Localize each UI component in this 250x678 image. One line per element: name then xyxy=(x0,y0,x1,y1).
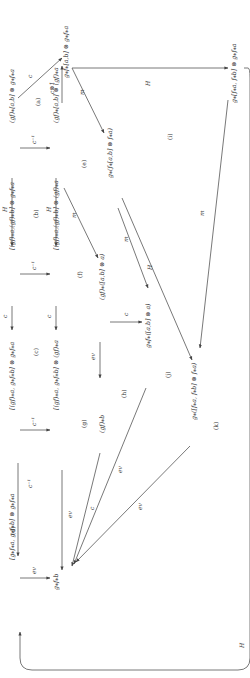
node-g-f-ab-tensor-f-a: g⁎(f⁎[a,b] ⊗ f⁎a) xyxy=(106,128,114,178)
region-i: (i) xyxy=(166,133,173,140)
label-ev-h: ev xyxy=(116,465,123,473)
node-gf-ab-tensor-gfa: (gf)⁎[a,b] ⊗ g⁎f⁎a xyxy=(8,69,16,123)
arrow-ev-n14-n9 xyxy=(76,446,190,562)
arrow-m-n6-n11 xyxy=(64,188,98,258)
arrow-H-n10-n14 xyxy=(122,198,192,360)
region-e: (e) xyxy=(80,160,87,168)
label-c-diag: c xyxy=(26,74,33,78)
label-cinv-n1-n6: c⁻¹ xyxy=(30,135,37,144)
label-m-n5: m xyxy=(78,89,85,95)
label-H-outer: H xyxy=(238,642,245,649)
node-g-f-ab-tensor-a: g⁎f⁎([a,b] ⊗ a) xyxy=(144,303,152,348)
label-H-mid: H xyxy=(45,206,52,213)
node-g-hom-fa-fb-tensor-gfa: g⁎[f⁎a, f⁎b] ⊗ g⁎f⁎a xyxy=(230,43,238,103)
arrow-ev-n13-n9 xyxy=(74,388,146,564)
arrow-c-n12-n9 xyxy=(72,453,100,566)
commutative-diagram: (gf)⁎[a,b] ⊗ g⁎f⁎a [(gf)⁎a,(gf)⁎b] ⊗ g⁎f… xyxy=(0,0,250,678)
label-cinv-n2-n7: c⁻¹ xyxy=(30,261,37,270)
node-hom-gfa-g-f-b-top: [(gf)⁎a, g⁎f⁎b] ⊗ g⁎f⁎a xyxy=(8,341,16,410)
label-ev-n11: ev xyxy=(89,352,96,360)
label-m-bottom: m xyxy=(198,210,205,216)
label-ev-n8: ev xyxy=(66,510,73,518)
region-b: (b) xyxy=(32,209,39,218)
region-g: (g) xyxy=(80,419,88,428)
node-gf-b: (gf)⁎b xyxy=(98,415,106,433)
label-H-top: H xyxy=(1,206,8,213)
node-g-f-b: g⁎f⁎b xyxy=(52,574,60,590)
label-ev-k: ev xyxy=(136,502,143,510)
region-f: (f) xyxy=(76,271,83,278)
region-d: (d) xyxy=(9,526,16,535)
arrow-m-bottom xyxy=(200,100,228,348)
label-cinv-diag: c⁻¹ xyxy=(26,479,33,488)
label-cinv-n3-n8: c⁻¹ xyxy=(30,417,37,426)
node-gf-ab-tensor-g-f-a: g⁎f⁎[a,b] ⊗ g⁎f⁎a xyxy=(62,26,70,78)
label-H-bottom: H xyxy=(144,80,151,87)
label-c-n11: c xyxy=(122,312,129,316)
node-gf-ab-tensor-gf-a: (gf)⁎[a,b] ⊗ (gf)⁎a xyxy=(52,67,60,123)
label-c-n12: c xyxy=(88,506,95,510)
region-j: (j) xyxy=(164,371,172,378)
label-c-otimes-1: c⊗1 xyxy=(48,82,55,94)
label-c-top: c xyxy=(1,314,8,318)
label-ev-n4-n9: ev xyxy=(30,566,37,574)
region-c: (c) xyxy=(32,348,39,356)
node-hom-gfa-g-f-b-tensor-gfa: [(gf)⁎a, g⁎f⁎b] ⊗ (gf)⁎a xyxy=(52,340,60,410)
region-a: (a) xyxy=(34,98,41,106)
arrow-m-n5-n10 xyxy=(72,68,104,133)
label-c-mid: c xyxy=(45,314,52,318)
region-k: (k) xyxy=(212,422,219,430)
label-m-n6: m xyxy=(70,212,77,218)
node-gf-ab-tensor-a: (gf)⁎([a,b] ⊗ a) xyxy=(98,253,106,300)
region-h: (h) xyxy=(120,389,127,398)
label-H-n10: H xyxy=(146,264,153,271)
node-g-hom-fa-fb-tensor-fa: g⁎([f⁎a, f⁎b] ⊗ f⁎a) xyxy=(190,362,198,420)
label-m-n10: m xyxy=(122,236,129,242)
